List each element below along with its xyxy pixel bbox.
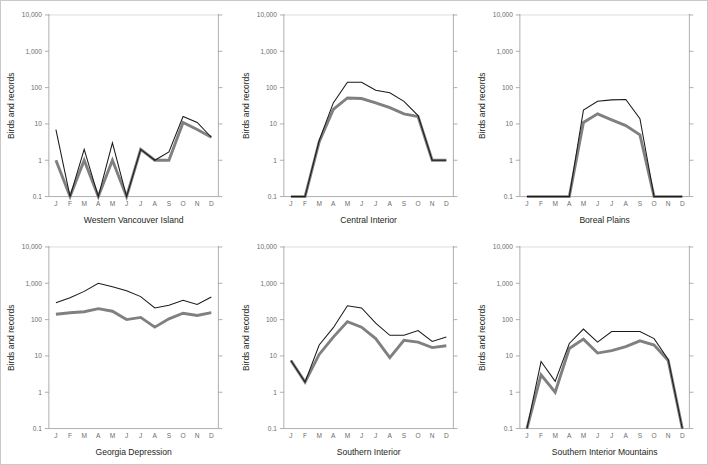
x-tick-label: J [125, 200, 128, 207]
chart-western-vancouver-island: 10,0001,0001001010.1JFMAMJJASONDBirds an… [1, 1, 236, 233]
y-tick-label: 10,000 [22, 11, 42, 18]
x-tick-label: S [402, 432, 407, 439]
x-tick-label: M [317, 432, 322, 439]
x-tick-label: M [345, 432, 350, 439]
x-tick-label: J [374, 200, 377, 207]
x-tick-label: D [209, 432, 214, 439]
panel-southern-interior: 10,0001,0001001010.1JFMAMJJASONDBirds an… [236, 233, 471, 465]
panel-southern-interior-mountains: 10,0001,0001001010.1JFMAMJJASONDBirds an… [472, 233, 707, 465]
x-tick-label: S [637, 200, 642, 207]
x-tick-label: F [539, 200, 543, 207]
x-tick-label: J [54, 200, 57, 207]
y-tick-label: 0.1 [268, 193, 277, 200]
y-tick-label: 10 [35, 120, 43, 127]
x-tick-label: A [331, 432, 336, 439]
series-line-birds [527, 114, 682, 197]
panel-caption: Georgia Depression [96, 446, 172, 456]
x-tick-label: J [360, 200, 363, 207]
panel-caption: Southern Interior Mountains [551, 446, 657, 456]
x-tick-label: N [430, 200, 435, 207]
panel-georgia-depression: 10,0001,0001001010.1JFMAMJJASONDBirds an… [1, 233, 236, 465]
x-tick-label: O [416, 432, 421, 439]
y-tick-label: 1,000 [496, 48, 513, 55]
x-tick-label: M [580, 200, 585, 207]
y-axis-title: Birds and records [6, 73, 16, 139]
y-axis-title: Birds and records [241, 304, 251, 370]
x-tick-label: J [54, 432, 57, 439]
x-tick-label: O [181, 432, 186, 439]
series-line-records [527, 100, 682, 197]
series-line-records [56, 283, 211, 308]
y-axis-title: Birds and records [477, 304, 487, 370]
x-tick-label: J [596, 432, 599, 439]
y-tick-label: 1 [274, 388, 278, 395]
x-tick-label: M [552, 432, 557, 439]
x-tick-label: F [539, 432, 543, 439]
panel-central-interior: 10,0001,0001001010.1JFMAMJJASONDBirds an… [236, 1, 471, 233]
y-axis-title: Birds and records [6, 304, 16, 370]
series-line-records [527, 329, 682, 429]
series-line-birds [291, 321, 446, 381]
series-line-birds [56, 122, 211, 196]
y-tick-label: 10 [270, 120, 278, 127]
chart-georgia-depression: 10,0001,0001001010.1JFMAMJJASONDBirds an… [1, 233, 236, 465]
x-tick-label: M [317, 200, 322, 207]
x-tick-label: A [153, 200, 158, 207]
y-axis-title: Birds and records [477, 73, 487, 139]
x-tick-label: A [96, 200, 101, 207]
x-tick-label: M [580, 432, 585, 439]
x-tick-label: D [680, 200, 685, 207]
y-tick-label: 1 [509, 157, 513, 164]
x-tick-label: O [651, 432, 656, 439]
y-tick-label: 100 [266, 84, 277, 91]
y-tick-label: 1 [38, 388, 42, 395]
y-tick-label: 100 [266, 316, 277, 323]
y-tick-label: 100 [31, 316, 42, 323]
y-tick-label: 1 [274, 157, 278, 164]
y-tick-label: 0.1 [33, 193, 42, 200]
x-tick-label: A [567, 200, 572, 207]
x-tick-label: N [430, 432, 435, 439]
x-tick-label: S [402, 200, 407, 207]
x-tick-label: M [552, 200, 557, 207]
panel-caption: Southern Interior [337, 446, 401, 456]
y-tick-label: 10,000 [257, 243, 277, 250]
series-line-birds [291, 98, 446, 197]
y-tick-label: 0.1 [503, 193, 512, 200]
y-tick-label: 1,000 [25, 279, 42, 286]
series-line-records [56, 117, 211, 197]
x-tick-label: M [81, 432, 86, 439]
x-tick-label: J [374, 432, 377, 439]
x-tick-label: A [623, 200, 628, 207]
x-tick-label: N [665, 432, 670, 439]
x-tick-label: M [110, 432, 115, 439]
y-tick-label: 0.1 [503, 424, 512, 431]
x-tick-label: A [388, 432, 393, 439]
x-tick-label: J [610, 432, 613, 439]
x-tick-label: M [110, 200, 115, 207]
x-tick-label: N [195, 200, 200, 207]
x-tick-label: J [139, 200, 142, 207]
x-tick-label: F [303, 432, 307, 439]
y-tick-label: 10,000 [22, 243, 42, 250]
series-line-birds [527, 339, 682, 428]
figure-container: 10,0001,0001001010.1JFMAMJJASONDBirds an… [0, 0, 708, 465]
x-tick-label: J [139, 432, 142, 439]
y-tick-label: 1,000 [25, 48, 42, 55]
y-tick-label: 100 [502, 316, 513, 323]
x-tick-label: D [209, 200, 214, 207]
y-tick-label: 10,000 [257, 11, 277, 18]
x-tick-label: F [68, 200, 72, 207]
y-tick-label: 100 [502, 84, 513, 91]
panel-grid: 10,0001,0001001010.1JFMAMJJASONDBirds an… [1, 1, 707, 464]
x-tick-label: J [290, 200, 293, 207]
x-tick-label: A [567, 432, 572, 439]
series-line-birds [56, 308, 211, 326]
y-axis-title: Birds and records [241, 73, 251, 139]
x-tick-label: J [610, 200, 613, 207]
panel-boreal-plains: 10,0001,0001001010.1JFMAMJJASONDBirds an… [472, 1, 707, 233]
x-tick-label: M [81, 200, 86, 207]
x-tick-label: S [637, 432, 642, 439]
panel-western-vancouver-island: 10,0001,0001001010.1JFMAMJJASONDBirds an… [1, 1, 236, 233]
y-tick-label: 10 [505, 352, 513, 359]
